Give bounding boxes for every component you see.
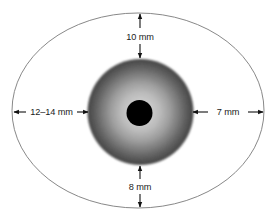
eye-diagram-canvas: 10 mm 12–14 mm 7 mm 8 mm [0, 0, 277, 224]
dimension-top-label: 10 mm [126, 32, 154, 42]
dimension-bottom-label: 8 mm [129, 182, 152, 192]
dimension-left-label: 12–14 mm [30, 107, 73, 117]
dimension-right-label: 7 mm [217, 107, 240, 117]
eye-dimension-diagram: 10 mm 12–14 mm 7 mm 8 mm [0, 0, 277, 224]
pupil [127, 100, 153, 126]
